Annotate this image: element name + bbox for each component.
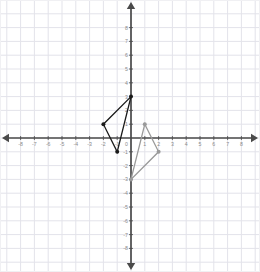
coordinate-plane-figure: -8-7-6-5-4-3-2-11234567887654321-1-2-3-4…: [0, 0, 260, 272]
x-tick-label: -7: [32, 141, 37, 147]
x-tick-label: -3: [87, 141, 92, 147]
y-tick-label: -7: [123, 232, 128, 238]
y-tick-label: -1: [123, 149, 128, 155]
x-tick-label: 5: [199, 141, 202, 147]
y-tick-label: -5: [123, 204, 128, 210]
x-tick-label: -5: [60, 141, 65, 147]
y-tick-label: -3: [123, 176, 128, 182]
x-tick-label: 6: [212, 141, 215, 147]
vertex-point: [129, 95, 133, 99]
y-tick-label: 7: [125, 38, 128, 44]
y-tick-label: 4: [125, 80, 128, 86]
vertex-point: [115, 150, 119, 154]
vertex-point: [129, 177, 133, 181]
y-tick-label: -4: [123, 190, 128, 196]
x-tick-label: -2: [101, 141, 106, 147]
y-tick-label: 5: [125, 66, 128, 72]
x-tick-label: -4: [73, 141, 78, 147]
y-tick-label: -8: [123, 245, 128, 251]
x-tick-label: -8: [18, 141, 23, 147]
origin-label: 0: [125, 141, 128, 147]
y-tick-label: 1: [125, 121, 128, 127]
x-tick-label: 1: [143, 141, 146, 147]
y-tick-label: 6: [125, 52, 128, 58]
y-tick-label: 8: [125, 25, 128, 31]
vertex-point: [143, 122, 147, 126]
y-tick-label: -6: [123, 218, 128, 224]
x-tick-label: 4: [185, 141, 188, 147]
x-tick-label: 8: [240, 141, 243, 147]
vertex-point: [101, 122, 105, 126]
x-tick-label: 7: [226, 141, 229, 147]
vertex-point: [157, 150, 161, 154]
coordinate-plane-svg: -8-7-6-5-4-3-2-11234567887654321-1-2-3-4…: [0, 0, 260, 272]
y-tick-label: 3: [125, 94, 128, 100]
x-tick-label: 2: [157, 141, 160, 147]
x-tick-label: 3: [171, 141, 174, 147]
x-tick-label: -6: [46, 141, 51, 147]
y-tick-label: -2: [123, 163, 128, 169]
plot-background: [0, 0, 260, 272]
